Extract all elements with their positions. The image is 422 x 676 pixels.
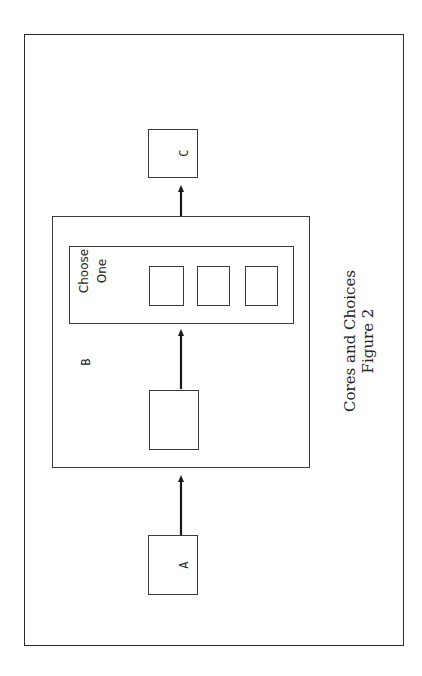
caption-title: Cores and Choices (341, 261, 359, 421)
node-a: A (148, 535, 198, 595)
choose-one-label-line2: One (95, 241, 109, 301)
choice-option-3 (245, 266, 278, 306)
choice-option-2 (197, 266, 230, 306)
node-b-inner (149, 390, 199, 450)
choose-one-group: Choose One (69, 246, 294, 324)
node-b: B Choose One (52, 216, 310, 468)
node-c: C (148, 129, 198, 178)
caption-subtitle: Figure 2 (359, 261, 377, 421)
choose-one-label-line1: Choose (77, 241, 91, 301)
node-a-label: A (177, 558, 191, 572)
node-c-label: C (177, 146, 191, 160)
node-b-label: B (79, 355, 93, 369)
figure-caption: Cores and Choices Figure 2 (341, 261, 379, 421)
choice-option-1 (149, 266, 184, 306)
